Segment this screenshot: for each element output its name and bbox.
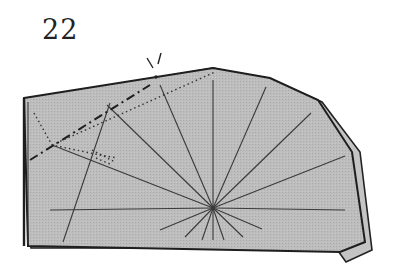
origami-diagram — [0, 0, 401, 270]
pivot-point-marker — [147, 53, 161, 78]
paper-shape — [24, 68, 365, 252]
